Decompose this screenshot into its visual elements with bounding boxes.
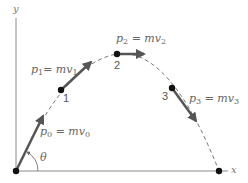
subscript: 0	[85, 130, 90, 139]
y-axis-label: y	[13, 4, 19, 14]
symbol-p: p	[31, 63, 38, 76]
momentum-label-2: p2 = mv2	[116, 33, 166, 46]
point-2-label: 2	[114, 60, 120, 71]
equals-m: = m	[201, 92, 228, 105]
equals-m: = m	[43, 63, 66, 76]
point-2-dot	[114, 51, 120, 57]
point-end-dot	[216, 168, 222, 174]
x-axis-label: x	[231, 165, 237, 175]
equals-m: = m	[52, 125, 79, 138]
momentum-label-3: p3 = mv3	[189, 93, 239, 106]
subscript: 3	[234, 97, 239, 106]
subscript: 1	[73, 68, 78, 77]
symbol-p: p	[189, 92, 196, 105]
point-1-label: 1	[63, 93, 69, 104]
symbol-p: p	[40, 125, 47, 138]
equals-m: = m	[128, 32, 155, 45]
momentum-label-1: p1= mv1	[31, 64, 78, 77]
angle-label: θ	[40, 152, 47, 163]
symbol-p: p	[116, 32, 123, 45]
angle-arc	[27, 152, 38, 171]
subscript: 2	[161, 37, 166, 46]
point-3-label: 3	[162, 91, 168, 102]
momentum-label-0: p0 = mv0	[40, 126, 90, 139]
momentum-arrow-0	[16, 116, 43, 171]
point-3-dot	[169, 85, 175, 91]
point-0-dot	[13, 168, 19, 174]
